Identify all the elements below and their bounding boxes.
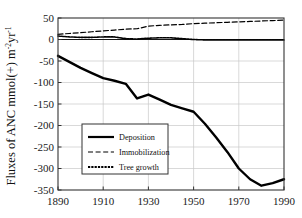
xtick-label-3: 1950	[183, 195, 206, 207]
ytick-label-8: -350	[34, 184, 55, 196]
xtick-label-5: 1990	[273, 195, 296, 207]
chart-container: 500-50-100-150-200-250-300-3501890191019…	[0, 0, 302, 218]
legend-label-tree-growth: Tree growth	[119, 163, 159, 172]
xtick-label-0: 1890	[47, 195, 70, 207]
y-axis-title: Fluxes of ANC mmol(+) m-2yr-1	[4, 26, 18, 185]
ytick-label-7: -300	[34, 162, 55, 174]
ytick-label-3: -100	[34, 76, 55, 88]
xtick-label-4: 1970	[228, 195, 251, 207]
ytick-label-1: 0	[49, 33, 55, 45]
flux-line-chart: 500-50-100-150-200-250-300-3501890191019…	[0, 0, 302, 218]
legend-label-immobilization: Immobilization	[119, 148, 169, 157]
ytick-label-6: -250	[34, 141, 55, 153]
xtick-label-1: 1910	[92, 195, 115, 207]
xtick-label-2: 1930	[137, 195, 160, 207]
ytick-label-4: -150	[34, 98, 55, 110]
ytick-label-0: 50	[43, 12, 55, 24]
ytick-label-5: -200	[34, 119, 55, 131]
legend-label-deposition: Deposition	[119, 133, 155, 142]
ytick-label-2: -50	[39, 55, 54, 67]
